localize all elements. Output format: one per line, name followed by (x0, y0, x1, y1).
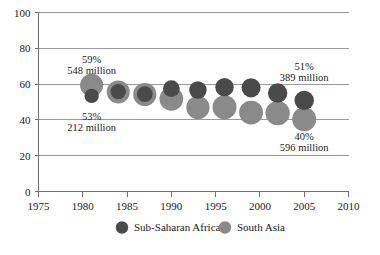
y-tick-label-60: 60 (20, 78, 32, 90)
x-tick-label-1985: 1985 (116, 200, 139, 212)
y-tick-label-80: 80 (20, 42, 32, 54)
bubble-sub-saharan-africa-1999 (242, 78, 261, 97)
annotation-value-ssa-2005: 389 million (280, 72, 329, 83)
y-tick-label-20: 20 (20, 150, 32, 162)
annotation-percent-ssa-2005: 51% (295, 61, 315, 72)
bubble-south-asia-2005 (292, 107, 316, 131)
y-tick-label-0: 0 (25, 186, 31, 198)
x-tick-label-1980: 1980 (72, 200, 95, 212)
x-tick-label-1995: 1995 (205, 200, 228, 212)
bubble-sub-saharan-africa-1990 (163, 80, 180, 97)
annotation-percent-ssa-1981: 53% (82, 111, 102, 122)
x-tick-label-1990: 1990 (160, 200, 183, 212)
y-tick-label-100: 100 (14, 7, 31, 19)
legend-marker-sub-saharan-africa (116, 221, 128, 233)
x-tick-label-2010: 2010 (338, 200, 361, 212)
chart-legend: Sub-Saharan AfricaSouth Asia (116, 221, 285, 234)
annotation-value-sa-1981: 548 million (67, 65, 116, 76)
bubble-south-asia-1996 (213, 95, 237, 119)
bubble-sub-saharan-africa-1987 (137, 86, 153, 102)
chart-canvas: 020406080100 197519801985199019952000200… (0, 0, 380, 255)
bubble-sub-saharan-africa-2005 (295, 91, 314, 110)
x-tick-label-2005: 2005 (293, 200, 316, 212)
x-axis-ticks: 19751980198519901995200020052010 (28, 192, 361, 212)
annotation-value-ssa-1981: 212 million (67, 122, 116, 133)
bubble-sub-saharan-africa-2002 (268, 83, 287, 102)
x-tick-label-1975: 1975 (28, 200, 51, 212)
bubble-south-asia-1999 (239, 101, 263, 125)
y-tick-label-40: 40 (20, 114, 32, 126)
bubble-sub-saharan-africa-1984 (111, 84, 126, 99)
bubble-chart: 020406080100 197519801985199019952000200… (0, 0, 380, 255)
annotation-percent-sa-1981: 59% (82, 54, 102, 65)
x-tick-label-2000: 2000 (249, 200, 272, 212)
bubble-south-asia-2002 (265, 101, 289, 125)
legend-marker-south-asia (219, 221, 231, 233)
bubble-sub-saharan-africa-1981 (84, 89, 98, 103)
annotation-percent-sa-2005: 40% (295, 131, 315, 142)
legend-label-south-asia: South Asia (237, 221, 285, 233)
bubble-sub-saharan-africa-1993 (189, 81, 207, 99)
y-axis-ticks: 020406080100 (14, 7, 39, 198)
annotation-value-sa-2005: 596 million (280, 142, 329, 153)
legend-label-sub-saharan-africa: Sub-Saharan Africa (134, 221, 221, 233)
bubble-south-asia-1993 (186, 96, 209, 119)
bubble-sub-saharan-africa-1996 (215, 78, 233, 96)
